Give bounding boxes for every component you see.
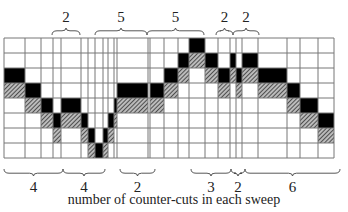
counter-cut-cell (189, 53, 205, 68)
cut-cell (205, 53, 218, 68)
cut-cell (95, 143, 103, 158)
bottom-brace-label: 6 (289, 180, 297, 195)
cut-cell (236, 68, 242, 83)
cut-cell (318, 113, 334, 128)
cut-cell (287, 83, 300, 98)
counter-cut-cell (103, 143, 108, 158)
top-brace-label: 2 (221, 10, 229, 25)
counter-cut-cell (178, 68, 189, 83)
top-brace-label: 2 (242, 10, 250, 25)
counter-cut-cell (218, 83, 230, 98)
caption: number of counter-cuts in each sweep (68, 193, 280, 207)
counter-cut-cell (4, 83, 25, 98)
cut-cell (4, 68, 25, 83)
brace-icon (147, 28, 204, 35)
cut-cell (41, 98, 53, 113)
cut-cell (103, 128, 108, 143)
brace-icon (216, 28, 233, 35)
grid-lines (4, 38, 334, 158)
counter-cut-cell (230, 68, 236, 83)
cut-cell (25, 83, 41, 98)
cut-cell (230, 53, 236, 68)
brace-icon (95, 28, 147, 35)
brace-icon (245, 169, 340, 176)
counter-cut-cell (287, 98, 300, 113)
brace-icon (231, 169, 245, 176)
counter-cut-cell (53, 128, 61, 143)
cut-cell (117, 83, 148, 98)
cut-cell (61, 98, 81, 113)
top-brace-label: 2 (62, 10, 70, 25)
cut-cell (189, 38, 205, 53)
cut-cell (81, 113, 88, 128)
cut-cell (218, 68, 230, 83)
counter-cut-cell (81, 128, 88, 143)
counter-cut-cell (258, 83, 287, 98)
top-brace-label: 5 (172, 10, 180, 25)
brace-icon (63, 169, 105, 176)
counter-cut-cell (164, 83, 178, 98)
counter-cut-diagram: 25522442326 number of counter-cuts in ea… (0, 0, 348, 212)
counter-cut-cell (88, 143, 95, 158)
cut-cell (53, 113, 61, 128)
cut-cell (258, 68, 287, 83)
counter-cut-cell (300, 113, 318, 128)
counter-cut-cell (150, 98, 164, 113)
cut-cell (108, 113, 114, 128)
counter-cut-cell (25, 98, 41, 113)
counter-cut-cell (205, 68, 218, 83)
counter-cut-cell (108, 128, 114, 143)
counter-cut-cell (41, 113, 53, 128)
cut-cell (150, 83, 164, 98)
cut-cell (300, 98, 318, 113)
cut-cell (242, 53, 258, 68)
counter-cut-cell (242, 68, 258, 83)
brace-icon (120, 169, 155, 176)
bottom-brace-label: 4 (30, 180, 38, 195)
counter-cut-cell (318, 128, 334, 143)
counter-cut-cell (61, 113, 81, 128)
brace-icon (191, 169, 231, 176)
brace-icon (4, 169, 63, 176)
cut-cell (178, 53, 189, 68)
brace-icon (233, 28, 259, 35)
brace-icon (52, 28, 80, 35)
cut-cell (88, 128, 95, 143)
counter-cut-cell (236, 83, 242, 98)
counter-cut-cell (117, 98, 148, 113)
cut-cell (164, 68, 178, 83)
top-brace-label: 5 (117, 10, 125, 25)
